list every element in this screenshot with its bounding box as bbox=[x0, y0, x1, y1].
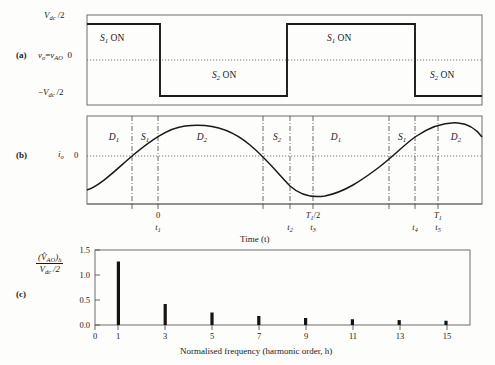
spectrum-bar-h5 bbox=[210, 313, 213, 326]
tick-label-c-x-5: 5 bbox=[202, 331, 222, 341]
tick-label-c-y-0p0: 0.0 bbox=[68, 320, 90, 330]
tick-label-c-x-11: 11 bbox=[343, 331, 363, 341]
tick-label-c-x-13: 13 bbox=[390, 331, 410, 341]
tick-label-c-x-9: 9 bbox=[296, 331, 316, 341]
spectrum-bar-h9 bbox=[304, 318, 307, 325]
axis-title-normalised-frequency: Normalised frequency (harmonic order, h) bbox=[180, 346, 332, 356]
tick-label-c-y-1p5: 1.5 bbox=[68, 245, 90, 255]
tick-label-c-x-7: 7 bbox=[249, 331, 269, 341]
tick-label-c-y-1p0: 1.0 bbox=[68, 270, 90, 280]
tick-label-c-x-3: 3 bbox=[155, 331, 175, 341]
tick-label-c-x-0: 0 bbox=[85, 331, 105, 341]
spectrum-bar-h13 bbox=[398, 320, 401, 325]
spectrum-bar-h15 bbox=[444, 321, 447, 325]
tick-label-c-x-15: 15 bbox=[437, 331, 457, 341]
panel-c-plot bbox=[0, 0, 495, 365]
spectrum-bar-group bbox=[117, 262, 448, 326]
figure-container: (a) (b) (c) Vdc /2 vo=vAO 0 −Vdc /2 S1 O… bbox=[0, 0, 495, 365]
spectrum-bar-h7 bbox=[257, 316, 260, 325]
spectrum-bar-h3 bbox=[164, 304, 167, 325]
tick-label-c-x-1: 1 bbox=[108, 331, 128, 341]
spectrum-bar-h11 bbox=[351, 319, 354, 325]
tick-label-c-y-0p5: 0.5 bbox=[68, 295, 90, 305]
spectrum-bar-h1 bbox=[117, 262, 120, 326]
